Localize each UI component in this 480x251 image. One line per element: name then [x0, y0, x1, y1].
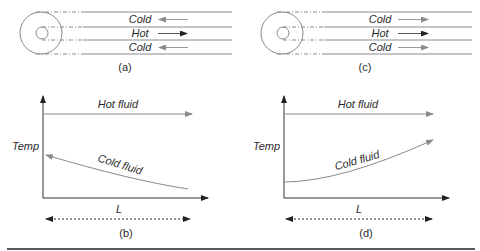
cold-fluid-label: Cold fluid: [333, 148, 381, 172]
caption-d: (d): [359, 227, 372, 239]
channel-label-hot: Hot: [371, 27, 389, 39]
heat-exchanger-diagram: Cold Hot Cold (a) Cold Hot Cold (c): [0, 0, 480, 251]
panel-d-parallelflow-profile: Hot fluid Cold fluid Temp L (d): [253, 96, 449, 239]
caption-c: (c): [359, 61, 372, 73]
channel-label-hot: Hot: [131, 27, 149, 39]
hot-fluid-label: Hot fluid: [98, 98, 139, 110]
x-axis-label: L: [116, 203, 122, 215]
panel-c-parallelflow-tube: Cold Hot Cold (c): [261, 12, 472, 73]
cold-fluid-label: Cold fluid: [96, 152, 144, 177]
inner-tube-icon: [277, 27, 289, 39]
outer-tube-icon: [261, 12, 303, 54]
caption-b: (b): [119, 227, 132, 239]
y-axis-label: Temp: [253, 140, 280, 152]
panel-b-counterflow-profile: Hot fluid Cold fluid Temp L (b): [12, 96, 208, 239]
y-axis-label: Temp: [12, 140, 39, 152]
channel-label-cold-top: Cold: [369, 13, 393, 25]
outer-tube-icon: [20, 12, 62, 54]
channel-label-cold-bottom: Cold: [369, 41, 393, 53]
channel-label-cold-bottom: Cold: [129, 41, 153, 53]
panel-a-counterflow-tube: Cold Hot Cold (a): [20, 12, 232, 73]
hot-fluid-label: Hot fluid: [338, 98, 379, 110]
caption-a: (a): [118, 61, 131, 73]
x-axis-label: L: [356, 203, 362, 215]
inner-tube-icon: [36, 27, 48, 39]
channel-label-cold-top: Cold: [129, 13, 153, 25]
